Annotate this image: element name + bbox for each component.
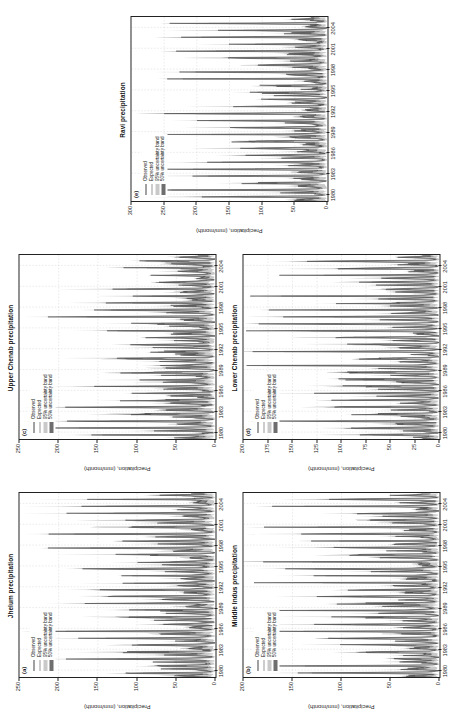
x-axis-tick-mark bbox=[214, 628, 217, 629]
x-axis-tick-mark bbox=[326, 194, 329, 195]
legend-item-observed: Observed bbox=[31, 375, 36, 433]
legend-item-observed: Observed bbox=[31, 613, 36, 671]
legend-label: Expected bbox=[37, 638, 42, 657]
legend-item-observed: Observed bbox=[143, 137, 148, 195]
y-axis-tick-label: 50 bbox=[386, 682, 392, 718]
x-axis-tick-label: 1989 bbox=[442, 602, 448, 614]
y-axis-tick-mark bbox=[163, 202, 164, 205]
legend-swatch-icon bbox=[267, 422, 271, 433]
x-axis-tick-label: 1995 bbox=[218, 561, 224, 573]
chart-legend: ObservedExpected95% uncertainty band50% … bbox=[29, 372, 55, 435]
precipitation-figure: Jhelum precipitation(a)050100150200250Pr… bbox=[0, 0, 455, 726]
x-axis-tick-mark bbox=[438, 608, 441, 609]
y-axis-tick-mark bbox=[242, 678, 243, 681]
y-axis-tick-label: 50 bbox=[172, 444, 178, 480]
legend-item-expected: Expected bbox=[37, 613, 42, 671]
x-axis-tick-mark bbox=[438, 370, 441, 371]
x-axis-tick-label: 1986 bbox=[442, 623, 448, 635]
x-axis-tick-label: 2001 bbox=[442, 519, 448, 531]
panel-tag: (e) bbox=[132, 190, 138, 199]
y-axis-tick-mark bbox=[438, 678, 439, 681]
x-axis-tick-label: 1983 bbox=[442, 644, 448, 656]
x-axis-tick-mark bbox=[438, 587, 441, 588]
x-axis-tick-mark bbox=[438, 432, 441, 433]
x-axis-tick-label: 1983 bbox=[442, 406, 448, 418]
x-axis-tick-label: 1995 bbox=[330, 85, 336, 97]
chart-panel-c: Upper Chenab precipitation(c)05010015020… bbox=[6, 248, 228, 480]
x-axis-tick-mark bbox=[438, 286, 441, 287]
legend-swatch-icon bbox=[33, 660, 34, 671]
legend-label: 50% uncertainty band bbox=[272, 375, 277, 419]
x-axis-tick-label: 1992 bbox=[218, 582, 224, 594]
legend-swatch-icon bbox=[39, 422, 40, 433]
y-axis-tick-mark bbox=[316, 440, 317, 443]
y-axis-tick-label: 125 bbox=[313, 444, 319, 480]
legend-item-expected: Expected bbox=[149, 137, 154, 195]
chart-legend: ObservedExpected95% uncertainty band50% … bbox=[29, 610, 55, 673]
x-axis-tick-label: 1989 bbox=[218, 602, 224, 614]
y-axis-tick-mark bbox=[261, 202, 262, 205]
y-axis-label: Precipitation, (mm/month) bbox=[196, 228, 262, 234]
y-axis-tick-mark bbox=[214, 440, 215, 443]
x-axis-tick-mark bbox=[326, 173, 329, 174]
x-axis-tick-label: 1983 bbox=[218, 644, 224, 656]
x-axis-tick-mark bbox=[214, 503, 217, 504]
x-axis-tick-label: 2001 bbox=[330, 43, 336, 55]
y-axis-tick-mark bbox=[57, 678, 58, 681]
chart-legend: ObservedExpected95% uncertainty band50% … bbox=[141, 134, 167, 197]
legend-item-band95: 95% uncertainty band bbox=[267, 375, 272, 433]
y-axis-tick-label: 50 bbox=[172, 682, 178, 718]
chart-panel-a: Jhelum precipitation(a)050100150200250Pr… bbox=[6, 486, 228, 718]
x-axis-tick-mark bbox=[214, 349, 217, 350]
panel-title: Middle Indus precipitation bbox=[230, 494, 237, 678]
x-axis-tick-label: 1986 bbox=[442, 385, 448, 397]
y-axis-tick-label: 250 bbox=[160, 206, 166, 242]
y-axis-tick-label: 0 bbox=[211, 444, 217, 480]
x-axis-tick-label: 1980 bbox=[218, 665, 224, 677]
y-axis-tick-label: 50 bbox=[386, 444, 392, 480]
x-axis-tick-label: 1989 bbox=[442, 364, 448, 376]
legend-swatch-icon bbox=[151, 184, 152, 195]
x-axis-tick-label: 2004 bbox=[218, 260, 224, 272]
x-axis-tick-label: 1995 bbox=[442, 323, 448, 335]
x-axis-tick-label: 1983 bbox=[218, 406, 224, 418]
y-axis-tick-mark bbox=[96, 440, 97, 443]
y-axis-tick-label: 150 bbox=[288, 444, 294, 480]
panel-tag: (b) bbox=[244, 665, 250, 675]
legend-item-band95: 95% uncertainty band bbox=[155, 137, 160, 195]
legend-swatch-icon bbox=[43, 422, 47, 433]
x-axis-tick-label: 1983 bbox=[330, 168, 336, 180]
legend-swatch-icon bbox=[263, 422, 264, 433]
x-axis-tick-mark bbox=[214, 307, 217, 308]
x-axis-tick-mark bbox=[438, 349, 441, 350]
x-axis-tick-mark bbox=[214, 390, 217, 391]
legend-label: Observed bbox=[255, 637, 260, 657]
x-axis-tick-mark bbox=[438, 411, 441, 412]
y-axis-tick-mark bbox=[136, 440, 137, 443]
y-axis-tick-label: 150 bbox=[225, 206, 231, 242]
y-axis-tick-label: 175 bbox=[264, 444, 270, 480]
y-axis-tick-label: 200 bbox=[239, 444, 245, 480]
legend-label: 95% uncertainty band bbox=[267, 613, 272, 657]
legend-swatch-icon bbox=[49, 422, 53, 433]
x-axis-tick-mark bbox=[438, 328, 441, 329]
x-axis-tick-mark bbox=[438, 265, 441, 266]
y-axis-tick-label: 50 bbox=[291, 206, 297, 242]
legend-item-band50: 50% uncertainty band bbox=[160, 137, 165, 195]
x-axis-tick-mark bbox=[438, 628, 441, 629]
y-axis-label: Precipitation, (mm/month) bbox=[84, 704, 150, 710]
x-axis-tick-label: 2004 bbox=[218, 498, 224, 510]
x-axis-tick-label: 2004 bbox=[442, 260, 448, 272]
y-axis-tick-label: 100 bbox=[337, 682, 343, 718]
y-axis-label: Precipitation, (mm/month) bbox=[308, 704, 374, 710]
y-axis-tick-label: 200 bbox=[54, 444, 60, 480]
x-axis-tick-mark bbox=[214, 432, 217, 433]
panel-tag: (a) bbox=[20, 666, 26, 675]
y-axis-tick-label: 200 bbox=[193, 206, 199, 242]
legend-swatch-icon bbox=[49, 660, 53, 671]
x-axis-tick-mark bbox=[326, 90, 329, 91]
legend-label: Expected bbox=[261, 400, 266, 419]
x-axis-tick-mark bbox=[438, 524, 441, 525]
x-axis-tick-label: 1995 bbox=[218, 323, 224, 335]
y-axis-tick-label: 0 bbox=[211, 682, 217, 718]
